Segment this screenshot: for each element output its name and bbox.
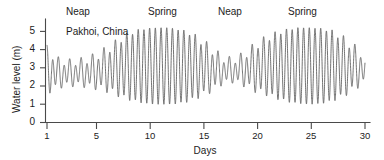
y-tick-label-5: 5 [21, 26, 35, 36]
y-axis-title: Water level (m) [12, 46, 22, 113]
x-tick-label-10: 10 [137, 131, 163, 141]
x-tick-label-15: 15 [191, 131, 217, 141]
tide-chart-figure: 5 4 3 2 1 0 1 5 10 15 20 25 30 Days Wate… [0, 0, 384, 160]
y-tick-label-1: 1 [21, 99, 35, 109]
x-tick-label-5: 5 [84, 131, 110, 141]
y-tick-label-0: 0 [21, 117, 35, 127]
y-tick-label-3: 3 [21, 62, 35, 72]
y-tick-label-4: 4 [21, 44, 35, 54]
x-tick-label-1: 1 [34, 131, 60, 141]
station-name-label: Pakhoi, China [66, 27, 128, 37]
y-tick-label-2: 2 [21, 80, 35, 90]
tide-level-curve [47, 28, 365, 105]
x-tick-label-20: 20 [245, 131, 271, 141]
x-axis-title: Days [175, 146, 235, 156]
annotation-spring-1: Spring [148, 7, 177, 17]
x-tick-label-30: 30 [352, 131, 378, 141]
annotation-neap-2: Neap [218, 7, 242, 17]
annotation-neap-1: Neap [66, 7, 90, 17]
annotation-spring-2: Spring [288, 7, 317, 17]
x-tick-label-25: 25 [298, 131, 324, 141]
tide-curve-group [47, 28, 365, 105]
